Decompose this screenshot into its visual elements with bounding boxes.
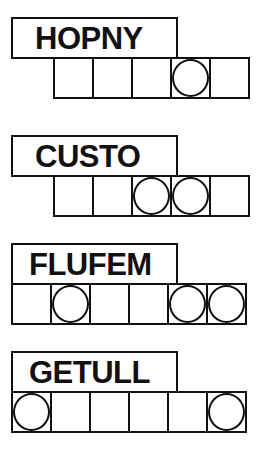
answer-cell-circled[interactable] [206,283,247,325]
answer-cells [53,175,250,217]
scrambled-word-box: HOPNY [11,17,178,59]
answer-cell[interactable] [92,175,133,217]
answer-cell[interactable] [167,391,208,433]
answer-cells [11,283,247,325]
scrambled-word-box: CUSTO [11,135,178,177]
scrambled-word: FLUFEM [29,249,152,280]
answer-cell[interactable] [53,175,94,217]
answer-cell-circled[interactable] [206,391,247,433]
answer-cell[interactable] [128,391,169,433]
circle-marker-icon [208,285,245,323]
answer-cells [53,57,250,99]
answer-cell[interactable] [128,283,169,325]
jumble-puzzle-1: HOPNY [0,17,272,103]
circle-marker-icon [13,393,50,431]
answer-cell[interactable] [209,57,250,99]
circle-marker-icon [172,177,209,215]
scrambled-word: GETULL [29,357,150,388]
answer-cell[interactable] [89,283,130,325]
jumble-puzzle-2: CUSTO [0,135,272,221]
scrambled-word: HOPNY [35,23,143,54]
scrambled-word: CUSTO [35,141,140,172]
answer-cell[interactable] [209,175,250,217]
scrambled-word-box: FLUFEM [11,243,178,285]
answer-cell[interactable] [50,391,91,433]
answer-cell-circled[interactable] [131,175,172,217]
answer-cell-circled[interactable] [11,391,52,433]
answer-cell[interactable] [89,391,130,433]
answer-cell[interactable] [11,283,52,325]
answer-cell[interactable] [92,57,133,99]
answer-cell[interactable] [53,57,94,99]
scrambled-word-box: GETULL [11,351,178,393]
circle-marker-icon [172,59,209,97]
circle-marker-icon [52,285,89,323]
answer-cells [11,391,247,433]
answer-cell-circled[interactable] [170,175,211,217]
answer-cell-circled[interactable] [50,283,91,325]
jumble-puzzle-4: GETULL [0,351,272,437]
jumble-puzzle-3: FLUFEM [0,243,272,329]
circle-marker-icon [208,393,245,431]
answer-cell-circled[interactable] [167,283,208,325]
circle-marker-icon [169,285,206,323]
answer-cell[interactable] [131,57,172,99]
answer-cell-circled[interactable] [170,57,211,99]
circle-marker-icon [133,177,170,215]
